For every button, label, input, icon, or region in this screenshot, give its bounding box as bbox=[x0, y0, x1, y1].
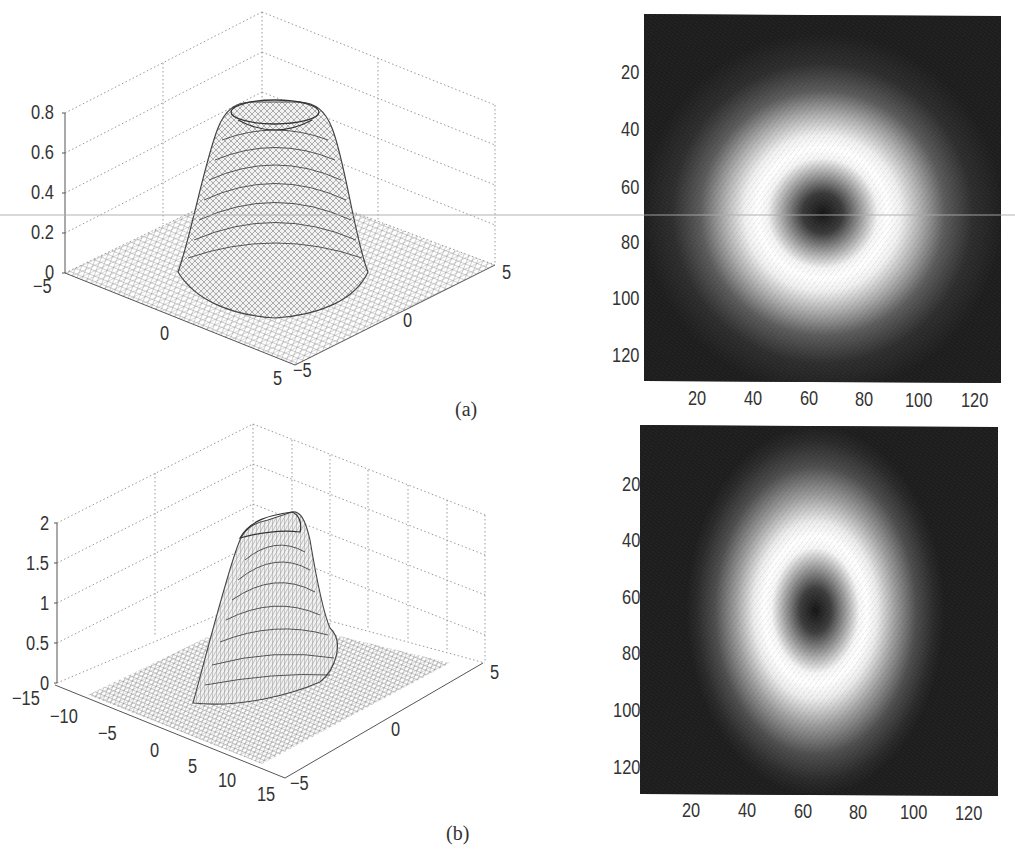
panel-a-caption: (a) bbox=[455, 398, 477, 421]
panel-a-y-tick: −5 bbox=[293, 360, 312, 380]
panel-a-x-tick: 0 bbox=[160, 323, 169, 343]
panel-b-x-tick: 5 bbox=[188, 756, 197, 776]
panel-b-z-tick: 2 bbox=[40, 513, 49, 533]
panel-b-noise bbox=[640, 425, 998, 796]
panel-b-intensity-image bbox=[640, 425, 998, 796]
panel-b-z-tick: 1 bbox=[40, 593, 49, 613]
panel-b-x-tick: 15 bbox=[257, 784, 275, 804]
panel-a-img-x-tick: 80 bbox=[855, 389, 873, 409]
panel-a-img-x-tick: 20 bbox=[688, 388, 706, 408]
panel-b-x-tick: −15 bbox=[12, 688, 40, 708]
panel-b-img-x-tick: 80 bbox=[849, 802, 867, 822]
panel-a-img-y-tick: 20 bbox=[621, 62, 639, 82]
panel-a-img-y-tick: 80 bbox=[621, 232, 639, 252]
panel-b-img-y-tick: 40 bbox=[622, 530, 640, 550]
panel-a-img-x-tick: 40 bbox=[744, 388, 762, 408]
panel-b-y-tick: 5 bbox=[490, 662, 499, 682]
panel-a-x-tick: 5 bbox=[273, 368, 282, 388]
panel-b-img-x-tick: 100 bbox=[900, 802, 927, 822]
panel-b-z-tick: 0 bbox=[40, 673, 49, 693]
panel-a-z-tick: 0.2 bbox=[31, 222, 54, 242]
panel-b-img-y-tick: 60 bbox=[622, 587, 640, 607]
panel-b-img-y-tick: 20 bbox=[622, 474, 640, 494]
panel-b-caption: (b) bbox=[446, 822, 469, 845]
panel-a-z-tick: 0.8 bbox=[31, 102, 54, 122]
panel-b-surface-svg bbox=[0, 420, 560, 862]
panel-a-img-y-tick: 60 bbox=[621, 177, 639, 197]
panel-a-img-y-tick: 120 bbox=[612, 345, 639, 365]
panel-b-img-y-tick: 120 bbox=[613, 757, 640, 777]
panel-a-y-tick: 0 bbox=[403, 310, 412, 330]
panel-a-y-tick: 5 bbox=[502, 262, 511, 282]
panel-b-img-y-tick: 100 bbox=[613, 700, 640, 720]
panel-b-img-x-tick: 20 bbox=[682, 800, 700, 820]
panel-a-x-tick: −5 bbox=[33, 276, 52, 296]
panel-b-x-tick: −5 bbox=[98, 723, 117, 743]
panel-a-img-y-tick: 40 bbox=[621, 119, 639, 139]
panel-a-noise bbox=[644, 14, 1001, 383]
panel-b-img-y-tick: 80 bbox=[622, 643, 640, 663]
panel-b-x-tick: 10 bbox=[218, 770, 236, 790]
panel-a-img-x-tick: 100 bbox=[905, 390, 932, 410]
panel-a-intensity-image bbox=[644, 14, 1001, 383]
panel-a-z-tick: 0.6 bbox=[31, 142, 54, 162]
panel-b-surface-plot: 2 1.5 1 0.5 0 −15 −10 −5 0 5 10 15 −5 0 … bbox=[0, 420, 560, 862]
panel-a-img-x-tick: 120 bbox=[961, 390, 988, 410]
panel-a-surface-svg bbox=[0, 0, 560, 400]
panel-a-surface-plot: 0.8 0.6 0.4 0.2 0 −5 0 5 −5 0 5 bbox=[0, 0, 560, 400]
panel-b-img-x-tick: 120 bbox=[955, 803, 982, 823]
panel-b-z-tick: 0.5 bbox=[26, 633, 49, 653]
panel-b-y-tick: 0 bbox=[391, 719, 400, 739]
scan-artifact-line bbox=[0, 214, 1015, 216]
panel-b-x-tick: 0 bbox=[150, 740, 159, 760]
panel-a-z-tick: 0.4 bbox=[31, 182, 54, 202]
panel-b-img-x-tick: 40 bbox=[738, 800, 756, 820]
panel-b-x-tick: −10 bbox=[50, 706, 78, 726]
panel-a-img-x-tick: 60 bbox=[800, 388, 818, 408]
panel-b-img-x-tick: 60 bbox=[794, 801, 812, 821]
panel-a-img-y-tick: 100 bbox=[612, 288, 639, 308]
panel-b-z-tick: 1.5 bbox=[26, 553, 49, 573]
panel-b-y-tick: −5 bbox=[290, 773, 309, 793]
